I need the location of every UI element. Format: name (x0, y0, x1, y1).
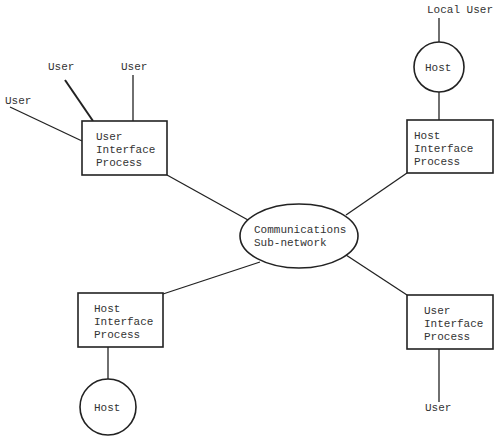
local-user-label: Local User (427, 4, 493, 16)
svg-text:Interface: Interface (96, 144, 155, 156)
svg-text:Host: Host (414, 130, 440, 142)
svg-text:Process: Process (424, 331, 470, 343)
svg-text:Process: Process (96, 157, 142, 169)
connector-uip-subnet (167, 175, 248, 220)
host-bottom-left: Host (80, 379, 136, 435)
svg-text:Host: Host (94, 303, 120, 315)
svg-text:Host: Host (94, 402, 120, 414)
svg-text:Interface: Interface (94, 316, 153, 328)
svg-text:Host: Host (425, 62, 451, 74)
communications-subnetwork: Communications Sub-network (240, 204, 358, 268)
svg-text:Interface: Interface (424, 318, 483, 330)
svg-text:User: User (424, 305, 450, 317)
svg-text:Interface: Interface (414, 143, 473, 155)
host-top-right: Host (414, 42, 464, 92)
svg-text:User: User (96, 131, 122, 143)
host-interface-process-top-right: Host Interface Process (407, 120, 493, 173)
network-diagram: User User User User Interface Process Lo… (0, 0, 496, 436)
user-label: User (121, 61, 147, 73)
connector-hip-subnet (346, 173, 407, 215)
connector-subnet-uip-br (346, 255, 407, 295)
user-label: User (425, 402, 451, 414)
svg-text:Process: Process (94, 329, 140, 341)
connector-user1-uip (10, 107, 82, 141)
svg-text:Communications: Communications (254, 224, 346, 236)
connector-subnet-hip-bl (163, 262, 260, 294)
connector-user2-uip (65, 80, 93, 121)
host-interface-process-bottom-left: Host Interface Process (78, 293, 163, 347)
svg-text:Process: Process (414, 156, 460, 168)
user-interface-process-top-left: User Interface Process (82, 121, 167, 175)
svg-text:Sub-network: Sub-network (254, 237, 327, 249)
user-label: User (5, 95, 31, 107)
user-interface-process-bottom-right: User Interface Process (407, 295, 493, 349)
user-label: User (48, 61, 74, 73)
